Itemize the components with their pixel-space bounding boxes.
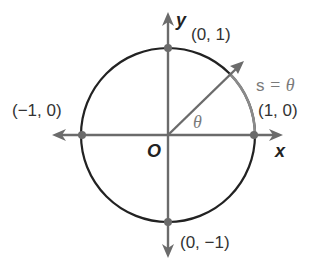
point-left bbox=[78, 131, 86, 139]
origin-label: O bbox=[147, 141, 161, 161]
x-axis-label: x bbox=[274, 141, 286, 161]
point-top bbox=[164, 44, 172, 52]
point-right-label: (1, 0) bbox=[258, 101, 298, 120]
point-left-label: (−1, 0) bbox=[12, 101, 62, 120]
point-bottom-label: (0, −1) bbox=[180, 233, 230, 252]
point-top-label: (0, 1) bbox=[191, 25, 231, 44]
arc-length-label: s = θ bbox=[256, 75, 295, 95]
unit-circle-diagram: y x O (0, 1) (−1, 0) (1, 0) (0, −1) θ s … bbox=[0, 0, 315, 268]
angle-theta-label: θ bbox=[193, 112, 202, 132]
angle-ray bbox=[168, 67, 238, 135]
y-axis-label: y bbox=[175, 10, 187, 30]
point-bottom bbox=[164, 218, 172, 226]
point-right bbox=[250, 131, 258, 139]
arc-s bbox=[230, 74, 256, 136]
